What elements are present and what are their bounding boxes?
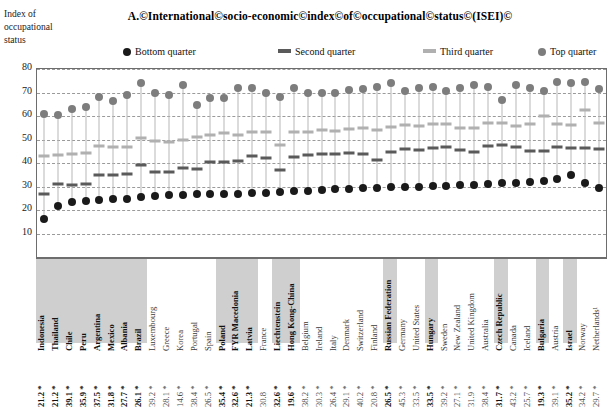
data-point-bottom-quarter: [262, 189, 270, 197]
data-point-second-quarter: [177, 166, 188, 169]
x-axis-value-label: 38.2 *: [300, 386, 310, 407]
data-point-second-quarter: [594, 147, 605, 150]
data-point-second-quarter: [302, 153, 313, 156]
data-point-bottom-quarter: [206, 190, 214, 198]
data-point-second-quarter: [510, 146, 521, 149]
data-point-second-quarter: [538, 149, 549, 152]
x-axis-label: Hong Kong-China: [286, 283, 296, 351]
x-axis-value-label: 32.6 *: [272, 386, 282, 407]
x-axis-value-label: 33.5 *: [411, 386, 421, 407]
x-axis-value-label: 26.4 *: [328, 386, 338, 407]
range-stem: [418, 88, 419, 187]
legend-item-label: Top quarter: [550, 46, 596, 57]
legend-bar-marker-icon: [423, 49, 436, 53]
range-stem: [557, 82, 558, 179]
x-axis-value-labels: 21.2 *21.2 *39.1 *35.9 *37.5 *31.8 *27.7…: [36, 344, 607, 398]
data-point-bottom-quarter: [68, 198, 76, 206]
legend-item-top-quarter: Top quarter: [538, 44, 596, 60]
x-axis-value-label: 29.7 *: [591, 386, 601, 407]
data-point-second-quarter: [413, 149, 424, 152]
data-point-third-quarter: [344, 127, 355, 130]
data-point-third-quarter: [538, 115, 549, 118]
range-stem: [432, 87, 433, 186]
legend-item-label: Second quarter: [295, 46, 355, 57]
range-stem: [404, 91, 405, 187]
x-axis-value-label: 35.9 *: [78, 386, 88, 407]
data-point-bottom-quarter: [109, 195, 117, 203]
data-point-top-quarter: [526, 84, 534, 92]
range-stem: [460, 88, 461, 185]
legend-dot-marker-icon: [538, 48, 546, 56]
data-point-second-quarter: [552, 145, 563, 148]
data-point-third-quarter: [594, 122, 605, 125]
data-point-bottom-quarter: [415, 183, 423, 191]
data-point-third-quarter: [205, 133, 216, 136]
range-stem: [113, 101, 114, 199]
data-point-top-quarter: [206, 94, 214, 102]
data-point-third-quarter: [552, 122, 563, 125]
data-point-top-quarter: [165, 91, 173, 99]
range-stem: [154, 93, 155, 196]
data-point-second-quarter: [385, 151, 396, 154]
x-axis-label: FYR Macedonia: [230, 291, 240, 351]
x-axis-value-label: 38.4 *: [189, 386, 199, 407]
chart-title: A.©International©socio-economic©index©of…: [70, 10, 570, 22]
data-point-top-quarter: [54, 111, 62, 119]
data-point-bottom-quarter: [40, 215, 48, 223]
data-point-bottom-quarter: [401, 183, 409, 191]
data-point-bottom-quarter: [193, 190, 201, 198]
data-point-second-quarter: [358, 152, 369, 155]
x-axis-value-label: 29.1 *: [341, 386, 351, 407]
x-axis-category-labels: IndonesiaThailandChilePeruArgentinaMexic…: [36, 259, 607, 343]
data-point-third-quarter: [372, 128, 383, 131]
y-tick-label-20: 20: [6, 202, 32, 213]
x-axis-label: Czech Republic: [494, 293, 504, 351]
data-point-second-quarter: [372, 159, 383, 162]
data-point-third-quarter: [413, 125, 424, 128]
data-point-top-quarter: [290, 84, 298, 92]
data-point-top-quarter: [262, 89, 270, 97]
x-axis-value-label: 21.2 *: [50, 386, 60, 407]
x-axis-value-label: 30.8: [258, 392, 268, 407]
data-point-bottom-quarter: [484, 180, 492, 188]
range-stem: [474, 85, 475, 184]
data-point-second-quarter: [80, 182, 91, 185]
x-axis-value-label: 27.1 *: [452, 386, 462, 407]
data-point-third-quarter: [510, 125, 521, 128]
data-point-top-quarter: [234, 84, 242, 92]
data-point-bottom-quarter: [567, 171, 575, 179]
y-tick-label-50: 50: [6, 132, 32, 143]
data-point-top-quarter: [373, 83, 381, 91]
data-point-bottom-quarter: [498, 179, 506, 187]
data-point-top-quarter: [442, 87, 450, 95]
x-axis-value-label: 21.2 *: [36, 386, 46, 407]
legend-item-second-quarter: Second quarter: [278, 44, 355, 60]
data-point-bottom-quarter: [179, 191, 187, 199]
x-axis-value-label: 37.5 *: [92, 386, 102, 407]
data-point-top-quarter: [95, 93, 103, 101]
data-point-bottom-quarter: [442, 182, 450, 190]
data-point-top-quarter: [512, 81, 520, 89]
data-point-third-quarter: [288, 131, 299, 134]
data-point-bottom-quarter: [345, 185, 353, 193]
y-tick-label-70: 70: [6, 85, 32, 96]
data-point-top-quarter: [137, 79, 145, 87]
data-point-top-quarter: [318, 89, 326, 97]
data-point-second-quarter: [122, 173, 133, 176]
data-point-second-quarter: [580, 147, 591, 150]
data-point-second-quarter: [136, 164, 147, 167]
data-point-second-quarter: [163, 170, 174, 173]
x-axis-value-label: 32.6 *: [230, 386, 240, 407]
data-point-top-quarter: [248, 84, 256, 92]
range-stem: [238, 88, 239, 194]
data-point-bottom-quarter: [54, 202, 62, 210]
data-point-top-quarter: [359, 85, 367, 93]
data-point-bottom-quarter: [234, 190, 242, 198]
x-axis-value-label: 35.2 *: [564, 386, 574, 407]
data-point-third-quarter: [441, 122, 452, 125]
data-point-third-quarter: [233, 133, 244, 136]
range-stem: [210, 98, 211, 194]
x-axis-value-label: 31.7 *: [494, 386, 504, 407]
range-stem: [252, 88, 253, 193]
data-point-bottom-quarter: [165, 191, 173, 199]
